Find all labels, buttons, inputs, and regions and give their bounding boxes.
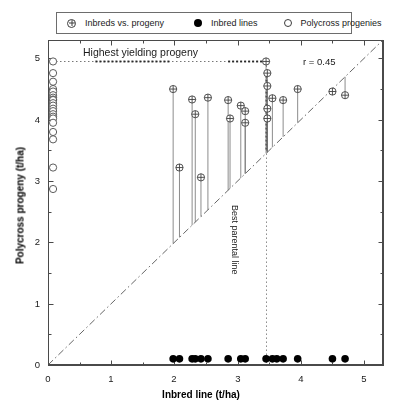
figure-root: Inbreds vs. progenyInbred linesPolycross… (0, 0, 402, 411)
annotation-best-parental: Best parental line (230, 205, 240, 275)
y-axis-label: Polycross progeny (t/ha) (15, 91, 26, 321)
annotation-correlation: r = 0.45 (303, 56, 335, 67)
annotation-highest-yielding: Highest yielding progeny (83, 46, 198, 58)
scatter-plot-canvas (0, 0, 402, 411)
x-axis-label: Inbred line (t/ha) (0, 389, 402, 400)
